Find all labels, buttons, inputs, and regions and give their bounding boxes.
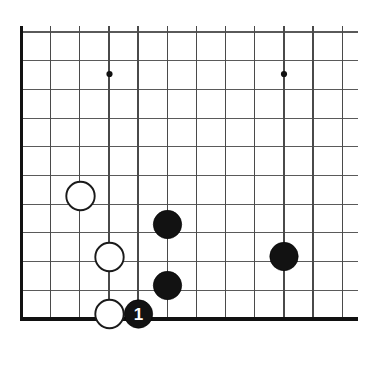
stone-white[interactable]: [95, 300, 123, 328]
stone-black[interactable]: [153, 271, 181, 299]
stone-white-disc[interactable]: [95, 300, 123, 328]
move-number-label: 1: [134, 305, 143, 324]
stone-white-disc[interactable]: [95, 243, 123, 271]
stone-black[interactable]: 1: [124, 300, 152, 328]
goban-svg: 1: [0, 0, 378, 368]
star-point-right-icon: [281, 71, 287, 77]
stone-black-disc[interactable]: [153, 210, 181, 238]
board-edge-lines: [20, 26, 358, 321]
stone-white-disc[interactable]: [66, 182, 94, 210]
go-board-diagram: 1: [0, 0, 378, 368]
stone-black-disc[interactable]: [270, 242, 298, 270]
grid-vertical-lines: [22, 26, 343, 319]
stone-black[interactable]: [153, 210, 181, 238]
stone-black[interactable]: [270, 242, 298, 270]
star-point-left-icon: [106, 71, 112, 77]
grid-horizontal-lines: [22, 32, 359, 319]
stone-white[interactable]: [95, 243, 123, 271]
stone-black-disc[interactable]: [153, 271, 181, 299]
stone-white[interactable]: [66, 182, 94, 210]
